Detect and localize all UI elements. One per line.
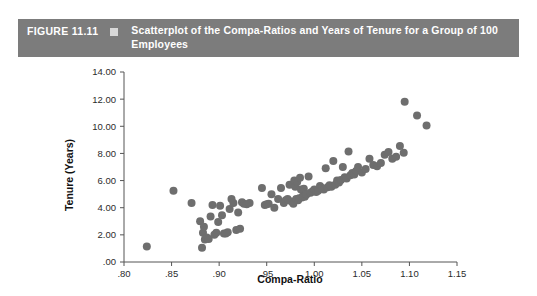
data-point: [270, 204, 278, 212]
data-point: [339, 163, 347, 171]
data-point: [377, 159, 385, 167]
data-point: [229, 199, 237, 207]
y-tick-label: 8.00: [98, 148, 117, 159]
data-point: [277, 184, 285, 192]
y-axis: .002.004.006.008.0010.0012.0014.00: [92, 66, 124, 267]
data-point: [396, 142, 404, 150]
data-point: [305, 173, 313, 181]
data-point: [258, 184, 266, 192]
square-bullet-icon: [110, 28, 118, 36]
scatterplot-figure: .002.004.006.008.0010.0012.0014.00 .80.8…: [0, 58, 537, 296]
figure-caption-text: Scatterplot of the Compa-Ratios and Year…: [131, 24, 513, 51]
data-point: [423, 122, 431, 130]
x-tick-label: 1.05: [353, 268, 372, 279]
y-tick-label: .00: [103, 256, 116, 267]
x-tick-label: .80: [117, 268, 130, 279]
data-point: [200, 223, 208, 231]
y-axis-title: Tenure (Years): [63, 139, 75, 211]
data-point: [322, 164, 330, 172]
x-axis-ticks: [124, 262, 457, 266]
data-point: [246, 199, 254, 207]
data-point: [345, 147, 353, 155]
data-point: [400, 149, 408, 157]
data-point: [236, 225, 244, 233]
data-point: [212, 229, 220, 237]
data-point: [296, 174, 304, 182]
data-point: [234, 208, 242, 216]
x-tick-label: 1.10: [400, 268, 419, 279]
y-tick-label: 2.00: [98, 229, 117, 240]
data-point: [267, 190, 275, 198]
y-tick-label: 4.00: [98, 202, 117, 213]
y-tick-label: 12.00: [92, 94, 116, 105]
scatter-points: [143, 98, 431, 252]
data-point: [214, 218, 222, 226]
data-point: [401, 98, 409, 106]
data-point: [362, 165, 370, 173]
data-point: [329, 157, 337, 165]
data-point: [224, 228, 232, 236]
figure-number-label: FIGURE 11.11: [18, 24, 98, 37]
data-point: [169, 187, 177, 195]
x-axis-title: Compa-Ratio: [257, 273, 322, 285]
data-point: [392, 153, 400, 161]
y-axis-tick-labels: .002.004.006.008.0010.0012.0014.00: [92, 66, 116, 267]
data-point: [208, 201, 216, 209]
x-tick-label: .90: [213, 268, 226, 279]
y-tick-label: 6.00: [98, 175, 117, 186]
x-tick-label: 1.15: [448, 268, 467, 279]
y-tick-label: 10.00: [92, 121, 116, 132]
y-tick-label: 14.00: [92, 66, 116, 77]
data-point: [198, 244, 206, 252]
data-point: [385, 148, 393, 156]
data-point: [207, 213, 215, 221]
y-axis-ticks: [120, 72, 124, 262]
data-point: [216, 202, 224, 210]
data-point: [143, 242, 151, 250]
scatterplot-svg: .002.004.006.008.0010.0012.0014.00 .80.8…: [0, 58, 537, 296]
data-point: [218, 211, 226, 219]
x-tick-label: .85: [165, 268, 178, 279]
data-point: [413, 111, 421, 119]
figure-caption-banner: FIGURE 11.11 Scatterplot of the Compa-Ra…: [18, 19, 519, 57]
data-point: [188, 199, 196, 207]
